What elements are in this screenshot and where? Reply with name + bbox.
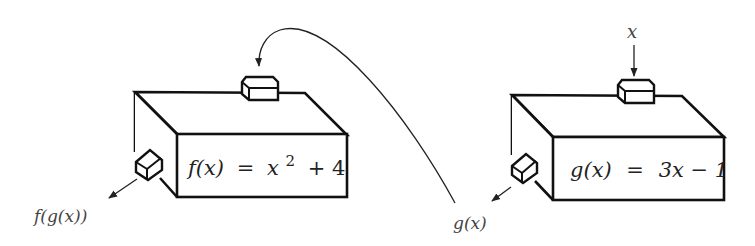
g-formula: g(x) = 3x − 1	[570, 158, 728, 182]
function-composition-diagram: f(x) = x 2 + 4 f(g(x)) x	[0, 0, 755, 246]
f-input-port	[242, 77, 278, 100]
g-output-label: g(x)	[453, 213, 487, 233]
f-machine: f(x) = x 2 + 4 f(g(x))	[32, 77, 347, 226]
g-input-port	[618, 80, 654, 103]
g-input-label: x	[627, 21, 637, 42]
g-output-arrow	[492, 187, 511, 201]
f-output-label: f(g(x))	[32, 206, 87, 226]
g-machine: x g(x) = 3x − 1 g(x)	[453, 21, 728, 233]
f-output-arrow	[109, 179, 137, 198]
